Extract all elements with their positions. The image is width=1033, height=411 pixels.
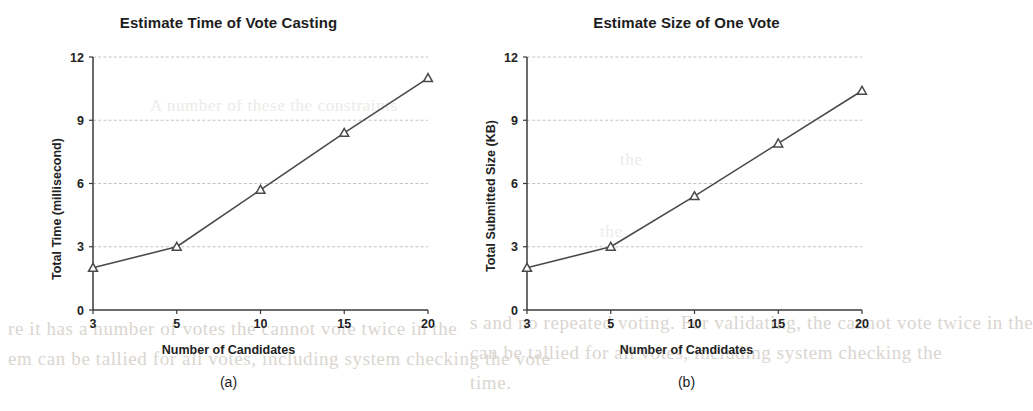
plot-area: 03691235101520 <box>0 40 457 330</box>
figure-subcaption: (b) <box>458 374 915 390</box>
data-point-marker[interactable] <box>606 242 615 250</box>
y-tick-label: 9 <box>511 114 518 128</box>
x-tick-label: 10 <box>688 317 702 330</box>
data-point-marker[interactable] <box>858 86 867 94</box>
y-tick-label: 9 <box>77 114 84 128</box>
x-tick-label: 5 <box>173 317 180 330</box>
data-point-marker[interactable] <box>774 139 783 147</box>
y-tick-label: 12 <box>70 51 84 65</box>
x-axis-title: Number of Candidates <box>0 343 457 357</box>
data-point-marker[interactable] <box>256 185 265 193</box>
figure-a: Estimate Time of Vote Casting Total Time… <box>0 0 457 411</box>
y-tick-label: 0 <box>511 304 518 318</box>
y-tick-label: 3 <box>77 240 84 254</box>
data-point-marker[interactable] <box>424 74 433 82</box>
y-tick-label: 3 <box>511 240 518 254</box>
x-tick-label: 20 <box>421 317 435 330</box>
figure-subcaption: (a) <box>0 374 457 390</box>
x-tick-label: 3 <box>90 317 97 330</box>
y-tick-label: 12 <box>504 51 518 65</box>
chart-title: Estimate Time of Vote Casting <box>0 14 457 31</box>
data-point-marker[interactable] <box>690 192 699 200</box>
x-tick-label: 10 <box>254 317 268 330</box>
x-tick-label: 20 <box>855 317 869 330</box>
figure-b: Estimate Size of One Vote Total Submitte… <box>458 0 915 411</box>
x-tick-label: 15 <box>337 317 351 330</box>
data-series-line <box>93 78 428 268</box>
data-series-line <box>527 91 862 268</box>
x-tick-label: 5 <box>607 317 614 330</box>
plot-area: 03691235101520 <box>458 40 915 330</box>
data-point-marker[interactable] <box>172 242 181 250</box>
line-chart-svg: 03691235101520 <box>458 40 915 330</box>
data-point-marker[interactable] <box>340 128 349 136</box>
y-tick-label: 0 <box>77 304 84 318</box>
line-chart-svg: 03691235101520 <box>0 40 457 330</box>
y-tick-label: 6 <box>511 177 518 191</box>
chart-title: Estimate Size of One Vote <box>458 14 915 31</box>
x-axis-title: Number of Candidates <box>458 343 915 357</box>
x-tick-label: 15 <box>771 317 785 330</box>
x-tick-label: 3 <box>524 317 531 330</box>
y-tick-label: 6 <box>77 177 84 191</box>
